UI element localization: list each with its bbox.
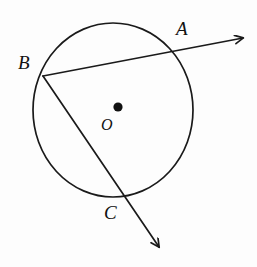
geometry-figure: A B C O: [0, 0, 257, 267]
ray-b-through-c: [43, 76, 159, 247]
point-label-c: C: [104, 203, 117, 222]
circle-shape: [33, 23, 193, 197]
ray-b-through-a: [43, 38, 243, 76]
point-label-a: A: [176, 19, 188, 38]
center-point-dot: [113, 102, 122, 111]
center-label-o: O: [101, 117, 113, 133]
point-label-b: B: [18, 53, 30, 72]
geometry-canvas: [0, 0, 257, 267]
